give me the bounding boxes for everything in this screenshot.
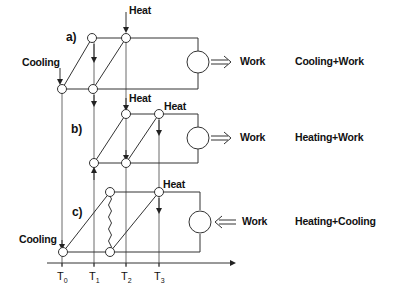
cycle-diagram xyxy=(0,0,398,301)
panel-label-b: b) xyxy=(71,122,82,136)
result-label-c: Heating+Cooling xyxy=(295,215,376,227)
tick-label-t1: T1 xyxy=(89,270,100,282)
panel-a-cycle xyxy=(62,38,231,89)
panel-label-c: c) xyxy=(72,205,82,219)
result-label-a: Cooling+Work xyxy=(295,55,364,67)
heat-label-c: Heat xyxy=(163,178,185,190)
heat-label-b1: Heat xyxy=(129,92,151,104)
heat-label-a: Heat xyxy=(129,4,151,16)
panel-b-cycle xyxy=(94,114,231,163)
panel-label-a: a) xyxy=(66,30,76,44)
work-label-a: Work xyxy=(240,55,265,67)
tick-label-t2: T2 xyxy=(121,270,132,282)
result-label-b: Heating+Work xyxy=(295,131,363,143)
panel-c-cycle xyxy=(63,192,236,252)
cooling-label-c: Cooling xyxy=(19,233,57,245)
heat-label-b2: Heat xyxy=(164,100,186,112)
cooling-label-a: Cooling xyxy=(22,56,60,68)
work-label-b: Work xyxy=(240,131,265,143)
work-label-c: Work xyxy=(242,215,267,227)
tick-label-t0: T0 xyxy=(57,270,68,282)
tick-label-t3: T3 xyxy=(154,270,165,282)
